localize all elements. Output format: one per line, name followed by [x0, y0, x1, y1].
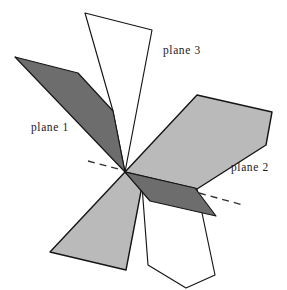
plane-3-label: plane 3: [163, 44, 201, 57]
plane-2-upper-right-face: [125, 95, 272, 189]
plane-1-label: plane 1: [31, 121, 69, 134]
plane-2-lower-left-face: [50, 172, 142, 270]
dashed-line-left: [88, 161, 118, 169]
plane-2-label: plane 2: [231, 161, 269, 174]
figure-container: plane 1 plane 2 plane 3: [0, 0, 287, 290]
three-planes-figure: plane 1 plane 2 plane 3: [0, 0, 287, 290]
